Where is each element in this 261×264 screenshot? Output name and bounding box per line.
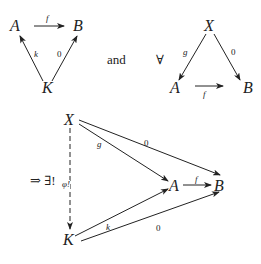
arrow-k-1 [20, 36, 43, 81]
label-k-3: k [106, 223, 110, 232]
label-k-1: k [34, 50, 38, 59]
arrow-zero-1 [52, 36, 77, 81]
label-zero-1: 0 [57, 50, 62, 59]
object-X-3: X [64, 112, 74, 128]
connector-and: and [107, 53, 126, 66]
implies-exists-unique: ⇒ ∃! [30, 174, 56, 187]
label-zero-top-3: 0 [144, 139, 149, 148]
label-g-3: g [97, 140, 102, 149]
object-A-3: A [169, 178, 179, 194]
object-A-1: A [10, 18, 20, 34]
label-zero-2: 0 [231, 48, 236, 57]
forall-symbol: ∀ [156, 53, 164, 66]
label-g-2: g [183, 48, 188, 57]
arrow-g-3 [79, 124, 168, 181]
object-X-2: X [204, 18, 214, 34]
label-f-3: f [195, 175, 198, 184]
arrow-zero-2 [214, 34, 240, 80]
object-B-1: B [73, 18, 83, 34]
label-phi-3: φ! [62, 180, 70, 189]
object-B-3: B [214, 178, 224, 194]
arrow-zero-bottom-3 [81, 192, 219, 241]
object-B-2: B [243, 80, 253, 96]
object-K-1: K [42, 80, 53, 96]
arrows-layer [0, 0, 261, 264]
arrow-g-2 [179, 34, 206, 80]
arrow-k-3 [75, 189, 168, 236]
object-K-3: K [63, 232, 74, 248]
label-zero-bottom-3: 0 [156, 224, 161, 233]
label-f-2: f [203, 90, 206, 99]
label-f-1: f [46, 14, 49, 23]
object-A-2: A [170, 80, 180, 96]
